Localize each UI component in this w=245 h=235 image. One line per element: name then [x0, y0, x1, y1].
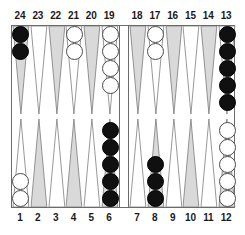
top-point-labels: 24 23 22 21 20 19 18 17 16 15 14 13 — [11, 8, 235, 24]
point-label: 17 — [146, 8, 164, 24]
point-label: 3 — [47, 210, 65, 226]
point-triangle-icon — [129, 26, 147, 116]
point-13[interactable] — [218, 26, 236, 116]
white-checker[interactable] — [147, 26, 164, 43]
black-checker[interactable] — [147, 173, 164, 190]
point-10[interactable] — [182, 117, 200, 207]
point-11[interactable] — [200, 117, 218, 207]
white-checker[interactable] — [102, 60, 119, 77]
checker-stack-point-24[interactable] — [12, 26, 30, 60]
point-21[interactable] — [65, 26, 83, 116]
point-8[interactable] — [147, 117, 165, 207]
checker-stack-point-12[interactable] — [218, 122, 236, 207]
point-6[interactable] — [101, 117, 119, 207]
point-label: 10 — [181, 210, 199, 226]
black-checker[interactable] — [147, 156, 164, 173]
black-checker[interactable] — [219, 94, 236, 111]
point-label: 14 — [199, 8, 217, 24]
white-checker[interactable] — [12, 173, 29, 190]
point-5[interactable] — [83, 117, 101, 207]
point-16[interactable] — [165, 26, 183, 116]
point-triangle-icon — [165, 26, 183, 116]
checker-stack-point-8[interactable] — [147, 156, 165, 207]
point-triangle-icon — [200, 117, 218, 207]
black-checker[interactable] — [219, 60, 236, 77]
point-triangle-icon — [182, 26, 200, 116]
point-triangle-icon — [83, 26, 101, 116]
point-label: 13 — [217, 8, 235, 24]
point-label: 1 — [11, 210, 29, 226]
black-checker[interactable] — [219, 77, 236, 94]
quadrant-top-left — [12, 26, 119, 116]
white-checker[interactable] — [66, 43, 83, 60]
point-1[interactable] — [12, 117, 30, 207]
black-checker[interactable] — [102, 156, 119, 173]
white-checker[interactable] — [219, 190, 236, 207]
point-15[interactable] — [182, 26, 200, 116]
point-triangle-icon — [30, 117, 48, 207]
point-7[interactable] — [129, 117, 147, 207]
white-checker[interactable] — [219, 173, 236, 190]
white-checker[interactable] — [219, 156, 236, 173]
white-checker[interactable] — [66, 26, 83, 43]
point-triangle-icon — [200, 26, 218, 116]
black-checker[interactable] — [102, 190, 119, 207]
point-label: 7 — [128, 210, 146, 226]
point-2[interactable] — [30, 117, 48, 207]
black-checker[interactable] — [219, 43, 236, 60]
point-label: 5 — [82, 210, 100, 226]
black-checker[interactable] — [12, 43, 29, 60]
point-18[interactable] — [129, 26, 147, 116]
white-checker[interactable] — [219, 139, 236, 156]
point-label: 4 — [64, 210, 82, 226]
checker-stack-point-13[interactable] — [218, 26, 236, 111]
point-14[interactable] — [200, 26, 218, 116]
checker-stack-point-17[interactable] — [147, 26, 165, 60]
white-checker[interactable] — [219, 122, 236, 139]
point-label: 16 — [164, 8, 182, 24]
white-checker[interactable] — [12, 190, 29, 207]
white-checker[interactable] — [102, 43, 119, 60]
point-label: 18 — [128, 8, 146, 24]
black-checker[interactable] — [12, 26, 29, 43]
label-gap-bar — [118, 8, 128, 24]
checker-stack-point-1[interactable] — [12, 173, 30, 207]
point-22[interactable] — [48, 26, 66, 116]
point-label: 24 — [11, 8, 29, 24]
black-checker[interactable] — [102, 139, 119, 156]
white-checker[interactable] — [147, 43, 164, 60]
point-label: 21 — [64, 8, 82, 24]
point-24[interactable] — [12, 26, 30, 116]
black-checker[interactable] — [219, 26, 236, 43]
point-9[interactable] — [165, 117, 183, 207]
point-19[interactable] — [101, 26, 119, 116]
white-checker[interactable] — [102, 77, 119, 94]
bottom-right-labels: 7 8 9 10 11 12 — [128, 210, 235, 226]
point-label: 8 — [146, 210, 164, 226]
checker-stack-point-6[interactable] — [101, 122, 119, 207]
point-3[interactable] — [48, 117, 66, 207]
point-triangle-icon — [65, 117, 83, 207]
point-4[interactable] — [65, 117, 83, 207]
point-17[interactable] — [147, 26, 165, 116]
board-frame — [11, 25, 235, 208]
point-12[interactable] — [218, 117, 236, 207]
point-label: 23 — [29, 8, 47, 24]
checker-stack-point-19[interactable] — [101, 26, 119, 94]
checker-stack-point-21[interactable] — [65, 26, 83, 60]
point-label: 2 — [29, 210, 47, 226]
point-triangle-icon — [48, 117, 66, 207]
black-checker[interactable] — [102, 173, 119, 190]
center-bar[interactable] — [119, 26, 129, 207]
quadrant-top-right — [129, 26, 236, 116]
point-20[interactable] — [83, 26, 101, 116]
point-label: 20 — [82, 8, 100, 24]
backgammon-board: 24 23 22 21 20 19 18 17 16 15 14 13 1 2 … — [0, 0, 245, 235]
point-triangle-icon — [30, 26, 48, 116]
black-checker[interactable] — [147, 190, 164, 207]
point-label: 9 — [164, 210, 182, 226]
black-checker[interactable] — [102, 122, 119, 139]
point-triangle-icon — [129, 117, 147, 207]
point-23[interactable] — [30, 26, 48, 116]
white-checker[interactable] — [102, 26, 119, 43]
